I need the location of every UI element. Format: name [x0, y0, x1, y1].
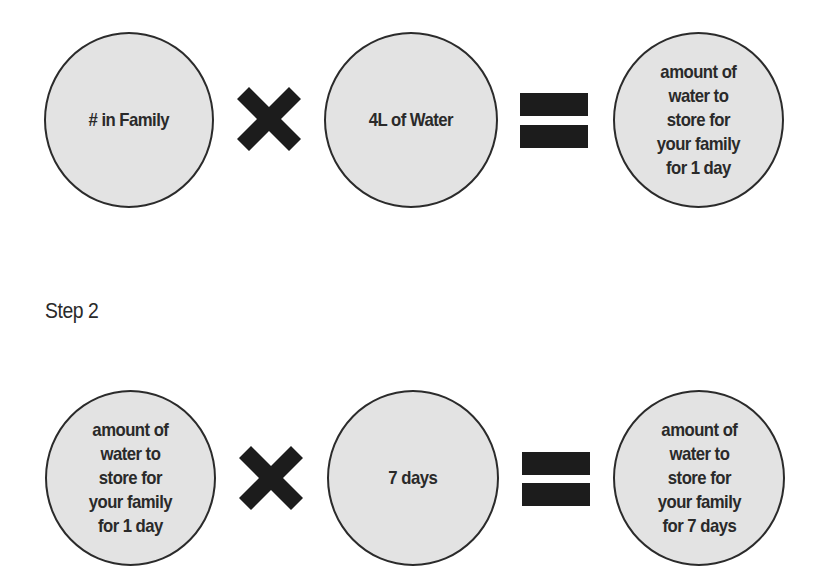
- step2-operand1-label: amount of water to store for your family…: [89, 418, 172, 538]
- step2-heading: Step 2: [45, 298, 98, 324]
- equals-icon: [520, 93, 588, 149]
- step2-operand2-label: 7 days: [389, 466, 438, 490]
- equals-bar-top: [522, 452, 590, 475]
- equals-bar-bottom: [522, 483, 590, 506]
- step1-family-count-circle: # in Family: [44, 32, 214, 208]
- step1-water-per-person-circle: 4L of Water: [324, 32, 498, 208]
- multiply-icon: [239, 446, 303, 510]
- multiply-icon: [237, 87, 301, 151]
- equals-bar-top: [520, 93, 588, 116]
- step2-daily-amount-circle: amount of water to store for your family…: [45, 390, 216, 566]
- step1-result-label: amount of water to store for your family…: [657, 60, 740, 180]
- step1-result-circle: amount of water to store for your family…: [613, 32, 784, 208]
- step2-result-label: amount of water to store for your family…: [657, 418, 740, 538]
- step1-operand2-label: 4L of Water: [369, 108, 453, 132]
- equals-bar-bottom: [520, 125, 588, 148]
- step2-days-circle: 7 days: [327, 390, 499, 566]
- step1-operand1-label: # in Family: [89, 108, 170, 132]
- step2-result-circle: amount of water to store for your family…: [613, 390, 785, 566]
- equals-icon: [522, 452, 590, 508]
